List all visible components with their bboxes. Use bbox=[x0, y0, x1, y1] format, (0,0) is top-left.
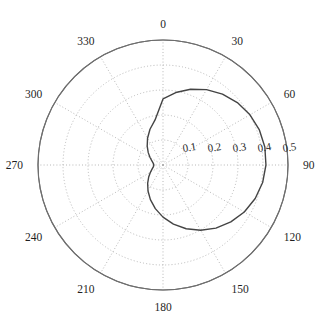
angle-tick-label-240: 240 bbox=[25, 231, 43, 243]
grid-spoke-150 bbox=[163, 165, 226, 273]
angle-tick-label-120: 120 bbox=[284, 231, 302, 243]
angle-tick-label-150: 150 bbox=[232, 283, 250, 295]
radial-tick-label-0.3: 0.3 bbox=[232, 140, 248, 154]
angle-tick-label-30: 30 bbox=[232, 35, 244, 47]
polar-chart-figure: 0.10.20.30.40.5 030609012015018021024027… bbox=[0, 0, 326, 330]
radial-tick-labels: 0.10.20.30.40.5 bbox=[182, 140, 298, 154]
grid-spoke-120 bbox=[163, 165, 271, 228]
polar-plot-canvas: 0.10.20.30.40.5 030609012015018021024027… bbox=[0, 0, 326, 330]
radial-tick-label-0.5: 0.5 bbox=[282, 140, 298, 154]
polar-grid-spokes bbox=[38, 40, 288, 290]
grid-spoke-300 bbox=[55, 103, 163, 166]
angle-tick-label-210: 210 bbox=[77, 283, 95, 295]
radial-tick-label-0.2: 0.2 bbox=[207, 140, 222, 154]
angle-tick-label-330: 330 bbox=[77, 35, 95, 47]
grid-spoke-210 bbox=[101, 165, 164, 273]
angle-tick-label-90: 90 bbox=[303, 159, 315, 171]
angle-tick-label-60: 60 bbox=[284, 88, 296, 100]
radial-tick-label-0.4: 0.4 bbox=[257, 140, 273, 154]
angle-tick-label-0: 0 bbox=[160, 18, 166, 30]
polar-data-curve bbox=[147, 89, 266, 230]
angle-tick-label-180: 180 bbox=[154, 301, 172, 313]
angular-tick-labels: 0306090120150180210240270300330 bbox=[6, 18, 315, 313]
angle-tick-label-270: 270 bbox=[6, 159, 24, 171]
radial-tick-label-0.1: 0.1 bbox=[182, 140, 197, 154]
grid-spoke-240 bbox=[55, 165, 163, 228]
grid-spoke-60 bbox=[163, 103, 271, 166]
angle-tick-label-300: 300 bbox=[25, 88, 43, 100]
grid-spoke-330 bbox=[101, 57, 164, 165]
